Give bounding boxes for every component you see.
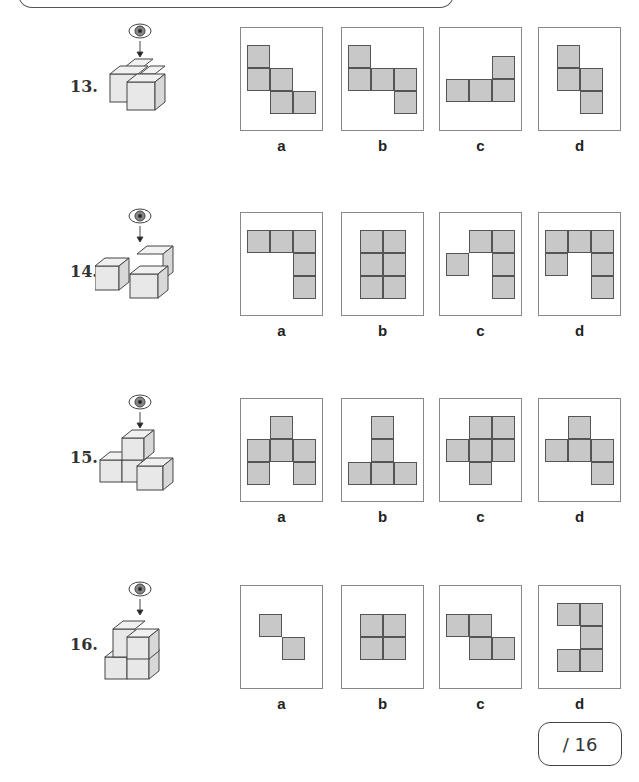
- grid-cell: [545, 253, 568, 276]
- grid-cell: [383, 253, 406, 276]
- grid-cell: [247, 230, 270, 253]
- option-label: a: [240, 508, 323, 525]
- option-label: a: [240, 695, 323, 712]
- option-c[interactable]: [439, 585, 522, 689]
- grid-cell: [591, 253, 614, 276]
- option-label: c: [439, 322, 522, 339]
- cube-figure-with-eye-icon: [95, 390, 185, 500]
- question-number: 14.: [70, 262, 98, 281]
- option-a[interactable]: [240, 212, 323, 316]
- grid-cell: [394, 68, 417, 91]
- grid-cell: [580, 603, 603, 626]
- grid-cell: [580, 91, 603, 114]
- grid-cell: [293, 276, 316, 299]
- question-number: 16.: [70, 635, 98, 654]
- option-a[interactable]: [240, 585, 323, 689]
- option-b[interactable]: [341, 398, 424, 502]
- score-box: / 16: [538, 722, 622, 766]
- grid-cell: [446, 79, 469, 102]
- grid-cell: [557, 649, 580, 672]
- option-label: c: [439, 508, 522, 525]
- grid-cell: [247, 45, 270, 68]
- grid-cell: [568, 416, 591, 439]
- grid-cell: [360, 230, 383, 253]
- grid-cell: [270, 68, 293, 91]
- grid-cell: [591, 462, 614, 485]
- grid-cell: [591, 230, 614, 253]
- grid-cell: [383, 276, 406, 299]
- grid-cell: [557, 68, 580, 91]
- option-label: b: [341, 508, 424, 525]
- option-b[interactable]: [341, 212, 424, 316]
- option-a[interactable]: [240, 27, 323, 131]
- grid-cell: [383, 614, 406, 637]
- grid-cell: [580, 649, 603, 672]
- grid-cell: [492, 253, 515, 276]
- option-c[interactable]: [439, 212, 522, 316]
- grid-cell: [293, 439, 316, 462]
- option-label: d: [538, 322, 621, 339]
- grid-cell: [270, 230, 293, 253]
- option-label: d: [538, 508, 621, 525]
- option-label: b: [341, 137, 424, 154]
- grid-cell: [469, 79, 492, 102]
- grid-cell: [469, 439, 492, 462]
- option-b[interactable]: [341, 585, 424, 689]
- grid-cell: [293, 91, 316, 114]
- question-number: 15.: [70, 448, 98, 467]
- grid-cell: [545, 439, 568, 462]
- cube-figure-with-eye-icon: [95, 19, 185, 129]
- grid-cell: [348, 462, 371, 485]
- grid-cell: [492, 230, 515, 253]
- grid-cell: [348, 68, 371, 91]
- option-c[interactable]: [439, 27, 522, 131]
- option-c[interactable]: [439, 398, 522, 502]
- score-label: / 16: [563, 734, 598, 755]
- grid-cell: [469, 462, 492, 485]
- option-a[interactable]: [240, 398, 323, 502]
- grid-cell: [492, 439, 515, 462]
- grid-cell: [394, 462, 417, 485]
- grid-cell: [394, 91, 417, 114]
- grid-cell: [492, 637, 515, 660]
- option-label: c: [439, 137, 522, 154]
- grid-cell: [360, 637, 383, 660]
- option-b[interactable]: [341, 27, 424, 131]
- grid-cell: [492, 79, 515, 102]
- grid-cell: [557, 45, 580, 68]
- grid-cell: [492, 56, 515, 79]
- grid-cell: [492, 416, 515, 439]
- grid-cell: [247, 462, 270, 485]
- grid-cell: [591, 439, 614, 462]
- grid-cell: [446, 253, 469, 276]
- grid-cell: [247, 439, 270, 462]
- grid-cell: [360, 253, 383, 276]
- grid-cell: [469, 614, 492, 637]
- option-d[interactable]: [538, 585, 621, 689]
- grid-cell: [591, 276, 614, 299]
- grid-cell: [371, 416, 394, 439]
- grid-cell: [371, 68, 394, 91]
- option-label: d: [538, 695, 621, 712]
- option-label: b: [341, 322, 424, 339]
- grid-cell: [580, 626, 603, 649]
- grid-cell: [293, 253, 316, 276]
- grid-cell: [247, 68, 270, 91]
- top-frame: [18, 0, 454, 8]
- option-d[interactable]: [538, 398, 621, 502]
- grid-cell: [371, 439, 394, 462]
- grid-cell: [371, 462, 394, 485]
- option-d[interactable]: [538, 212, 621, 316]
- grid-cell: [469, 637, 492, 660]
- grid-cell: [446, 614, 469, 637]
- grid-cell: [259, 614, 282, 637]
- grid-cell: [270, 416, 293, 439]
- grid-cell: [293, 230, 316, 253]
- grid-cell: [360, 276, 383, 299]
- cube-figure-with-eye-icon: [95, 577, 185, 687]
- option-d[interactable]: [538, 27, 621, 131]
- grid-cell: [360, 614, 383, 637]
- grid-cell: [568, 439, 591, 462]
- grid-cell: [383, 230, 406, 253]
- grid-cell: [383, 637, 406, 660]
